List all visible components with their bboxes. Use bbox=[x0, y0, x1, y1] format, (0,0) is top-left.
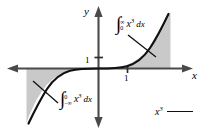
lower-integral-exponent: 3 bbox=[78, 92, 81, 99]
x-axis-label: x bbox=[192, 70, 197, 81]
y-axis-bottom-arrowhead bbox=[94, 117, 102, 128]
upper-integral-label: ∫∞0x3dx bbox=[116, 17, 145, 31]
lower-integral-label: ∫0−∞x3dx bbox=[60, 92, 92, 106]
upper-integral-exponent: 3 bbox=[131, 17, 134, 24]
y-axis-top-arrowhead bbox=[94, 6, 102, 17]
x-axis-left-arrowhead bbox=[7, 64, 18, 72]
integral-divergence-figure: ∫∞0x3dx ∫0−∞x3dx y x 1 1 x3 bbox=[0, 0, 210, 135]
legend-entry-exponent: 3 bbox=[159, 105, 162, 112]
upper-integral-limits: ∞0 bbox=[120, 19, 124, 32]
y-axis-label: y bbox=[84, 6, 89, 17]
lower-integral-lower-limit: −∞ bbox=[64, 100, 72, 106]
y-axis-tick-label-1: 1 bbox=[85, 56, 90, 65]
legend-entry-label: x3 bbox=[155, 105, 163, 117]
lower-integral-limits: 0−∞ bbox=[64, 94, 72, 107]
lower-integral-differential: dx bbox=[84, 94, 93, 104]
legend: x3 bbox=[155, 105, 193, 117]
upper-integral-differential: dx bbox=[136, 19, 145, 29]
x-axis-tick-label-1: 1 bbox=[124, 74, 129, 83]
upper-integral-lower-limit: 0 bbox=[120, 25, 124, 31]
legend-line-swatch bbox=[167, 111, 193, 112]
